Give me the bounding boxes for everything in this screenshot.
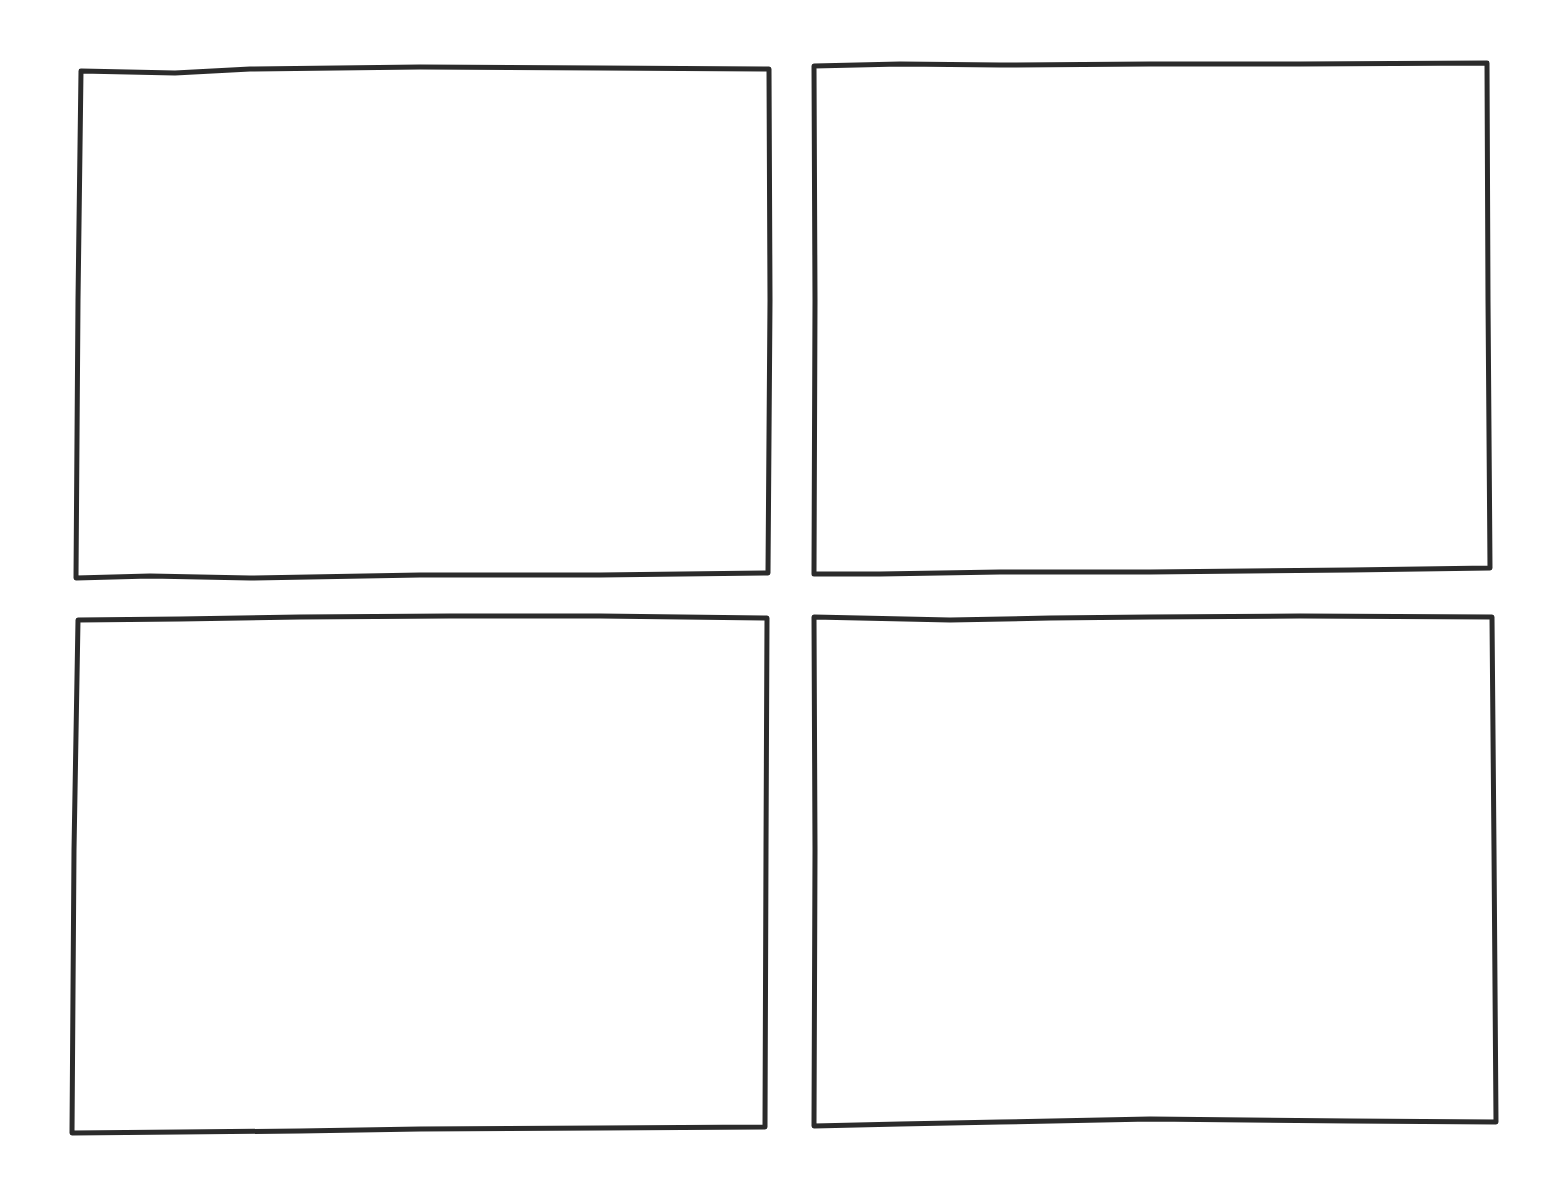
storyboard-sheet xyxy=(0,0,1565,1184)
paper-background xyxy=(0,0,1565,1184)
